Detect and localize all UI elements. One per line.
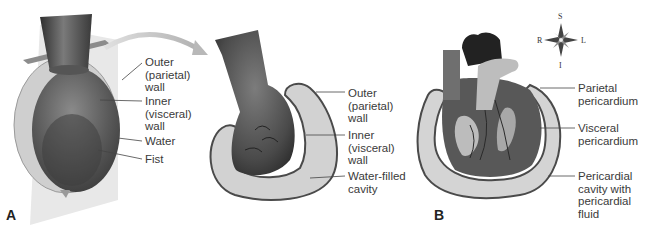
pericardium-diagram: Outer (parietal) wall Inner (visceral) w…: [0, 0, 645, 233]
label-outer-parietal-wall-cutaway: Outer (parietal) wall: [348, 87, 393, 125]
wrist-cuff: [49, 65, 89, 75]
label-fist: Fist: [145, 153, 164, 166]
compass-superior: S: [558, 12, 562, 21]
label-pericardial-cavity: Pericardial cavity with pericardial flui…: [578, 170, 632, 220]
transition-arrow: [105, 34, 200, 50]
compass-left: L: [581, 36, 586, 45]
label-inner-visceral-wall-cutaway: Inner (visceral) wall: [348, 129, 395, 167]
superior-vena-cava: [443, 50, 460, 100]
arrow-head: [192, 40, 208, 55]
fist-inside-balloon: [42, 114, 102, 186]
label-inner-visceral-wall-a: Inner (visceral) wall: [145, 95, 192, 133]
compass-right: R: [537, 36, 542, 45]
panel-b-illustration: [418, 33, 575, 199]
label-parietal-pericardium: Parietal pericardium: [578, 82, 638, 107]
panel-a-cutaway-illustration: [211, 30, 345, 200]
diagram-artwork: [0, 0, 645, 233]
panel-letter-b: B: [434, 207, 444, 223]
compass-inferior: I: [559, 61, 562, 70]
panel-letter-a: A: [6, 207, 16, 223]
label-water-filled-cavity: Water-filled cavity: [348, 170, 406, 195]
label-outer-parietal-wall-a: Outer (parietal) wall: [145, 56, 190, 94]
label-visceral-pericardium: Visceral pericardium: [578, 122, 638, 147]
label-water: Water: [145, 135, 175, 148]
compass-rose-icon: [544, 23, 578, 57]
